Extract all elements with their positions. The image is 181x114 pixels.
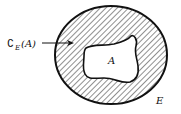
set-complement-diagram: ∁ E (A) A E: [0, 0, 181, 114]
complement-label: ∁ E (A): [7, 37, 36, 52]
complement-symbol: ∁: [7, 37, 14, 50]
label-set-a: A: [107, 55, 115, 66]
label-set-e: E: [155, 95, 164, 106]
complement-argument: (A): [21, 38, 36, 49]
complement-subscript: E: [14, 44, 20, 52]
